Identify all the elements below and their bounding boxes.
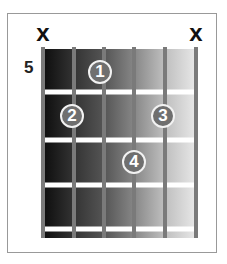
muted-string-x-icon: x	[33, 22, 53, 44]
fretboard	[43, 49, 196, 238]
string-line	[163, 47, 167, 238]
fret-line	[43, 227, 196, 232]
string-line	[41, 47, 45, 238]
fret-line	[43, 90, 196, 95]
finger-marker: 1	[88, 60, 112, 84]
string-line	[194, 47, 198, 238]
fret-line	[43, 138, 196, 143]
muted-string-x-icon: x	[186, 22, 206, 44]
fret-line	[43, 183, 196, 188]
finger-marker: 3	[151, 104, 175, 128]
finger-marker: 2	[60, 104, 84, 128]
string-line	[132, 47, 136, 238]
starting-fret-label: 5	[24, 58, 33, 78]
string-line	[72, 47, 76, 238]
finger-marker: 4	[122, 150, 146, 174]
